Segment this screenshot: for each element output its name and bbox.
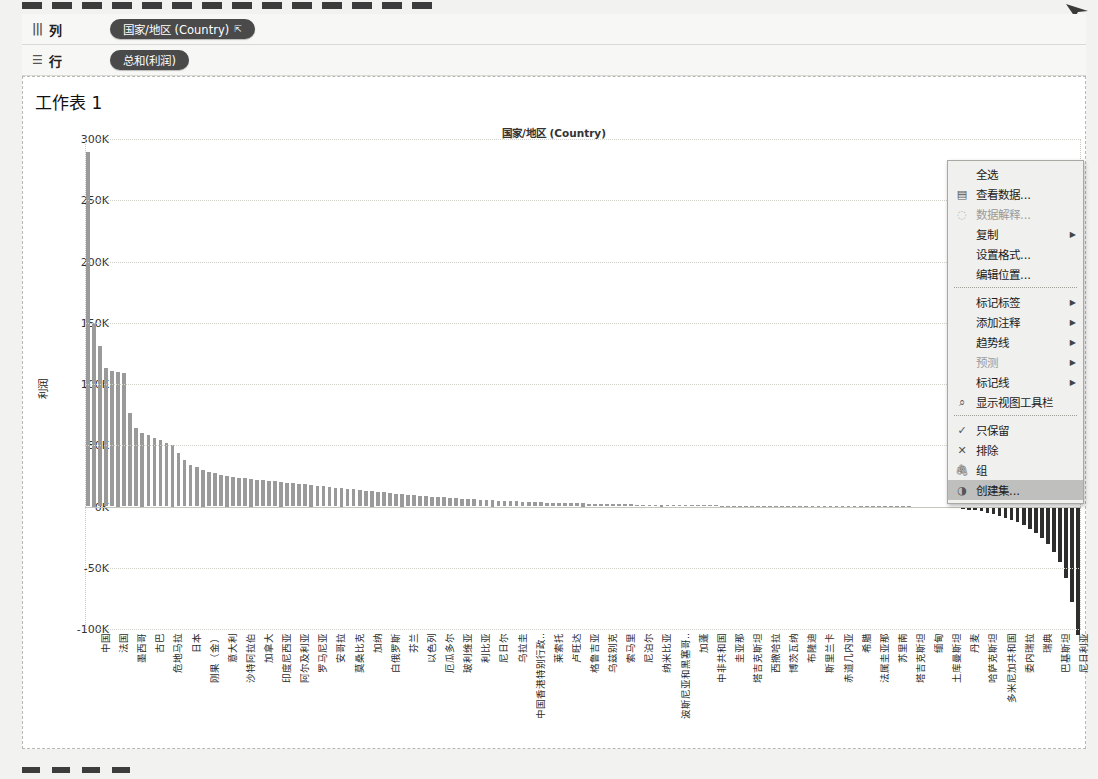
bar[interactable] [1058, 507, 1062, 562]
menu-item-查看数据[interactable]: ▤查看数据... [948, 184, 1083, 204]
bar[interactable] [448, 498, 452, 507]
bar[interactable] [364, 491, 368, 507]
bar[interactable] [140, 433, 144, 507]
menu-item-标记线[interactable]: 标记线▶ [948, 372, 1083, 392]
bar[interactable] [291, 483, 295, 506]
rows-shelf[interactable]: ☰ 行 总和(利润) [22, 45, 1086, 76]
bar[interactable] [358, 490, 362, 507]
bar[interactable] [998, 507, 1002, 516]
menu-item-添加注释[interactable]: 添加注释▶ [948, 312, 1083, 332]
bar[interactable] [195, 467, 199, 506]
bar[interactable] [189, 465, 193, 507]
bar[interactable] [346, 489, 350, 507]
bar[interactable] [159, 440, 163, 506]
bar[interactable] [249, 479, 253, 507]
bar[interactable] [454, 498, 458, 506]
bar[interactable] [334, 488, 338, 507]
bar[interactable] [134, 428, 138, 506]
bar[interactable] [388, 493, 392, 506]
bar[interactable] [255, 480, 259, 507]
bar[interactable] [382, 492, 386, 506]
bar[interactable] [309, 485, 313, 506]
bar[interactable] [376, 492, 380, 507]
bar[interactable] [485, 500, 489, 506]
bar[interactable] [285, 483, 289, 507]
bar[interactable] [1076, 507, 1080, 636]
bar[interactable] [406, 495, 410, 507]
context-menu[interactable]: 全选▤查看数据...◌数据解释...复制▶设置格式...编辑位置...标记标签▶… [947, 160, 1084, 504]
bar[interactable] [424, 496, 428, 506]
bar[interactable] [436, 497, 440, 506]
menu-item-设置格式[interactable]: 设置格式... [948, 244, 1083, 264]
bar[interactable] [1070, 507, 1074, 603]
bar[interactable] [992, 507, 996, 515]
bar[interactable] [316, 486, 320, 507]
bar[interactable] [1016, 507, 1020, 523]
bar[interactable] [243, 478, 247, 506]
bar[interactable] [261, 480, 265, 506]
bar[interactable] [177, 453, 181, 507]
bar[interactable] [183, 460, 187, 507]
bar[interactable] [1052, 507, 1056, 552]
menu-item-标记标签[interactable]: 标记标签▶ [948, 292, 1083, 312]
bar[interactable] [122, 373, 126, 507]
menu-item-趋势线[interactable]: 趋势线▶ [948, 332, 1083, 352]
bar[interactable] [231, 477, 235, 506]
bar[interactable] [400, 494, 404, 506]
bar[interactable] [116, 372, 120, 507]
bar[interactable] [225, 476, 229, 507]
bar[interactable] [165, 443, 169, 507]
bar[interactable] [86, 152, 90, 506]
bar[interactable] [201, 470, 205, 507]
bar[interactable] [418, 496, 422, 507]
bar[interactable] [322, 486, 326, 506]
bar[interactable] [98, 346, 102, 506]
bar[interactable] [110, 371, 114, 507]
pill-sum-profit[interactable]: 总和(利润) [110, 50, 189, 70]
bar[interactable] [412, 495, 416, 506]
bar[interactable] [442, 497, 446, 506]
bar[interactable] [1010, 507, 1014, 520]
bar[interactable] [128, 413, 132, 506]
bar[interactable] [207, 472, 211, 506]
menu-item-复制[interactable]: 复制▶ [948, 224, 1083, 244]
menu-item-显示视图工具栏[interactable]: ⌕显示视图工具栏 [948, 392, 1083, 412]
bar[interactable] [472, 499, 476, 506]
bar[interactable] [171, 445, 175, 506]
bar[interactable] [213, 473, 217, 506]
menu-item-组[interactable]: 🖇组 [948, 460, 1083, 480]
pill-country[interactable]: 国家/地区 (Country) ⇱ [110, 19, 255, 39]
bar[interactable] [430, 497, 434, 507]
columns-shelf[interactable]: ||| 列 国家/地区 (Country) ⇱ [22, 14, 1086, 45]
menu-item-创建集[interactable]: ◑创建集... [948, 480, 1083, 500]
bar[interactable] [352, 489, 356, 506]
bar[interactable] [1046, 507, 1050, 545]
bar[interactable] [460, 499, 464, 507]
bar[interactable] [279, 482, 283, 507]
bar[interactable] [1022, 507, 1026, 526]
bar[interactable] [273, 481, 277, 506]
bar[interactable] [1034, 507, 1038, 534]
bar[interactable] [370, 491, 374, 506]
bar[interactable] [466, 499, 470, 507]
bar[interactable] [267, 481, 271, 507]
bar[interactable] [104, 368, 108, 506]
bar[interactable] [394, 494, 398, 507]
menu-item-编辑位置[interactable]: 编辑位置... [948, 264, 1083, 284]
bar[interactable] [328, 487, 332, 507]
plot-region[interactable] [85, 139, 1081, 629]
menu-item-全选[interactable]: 全选 [948, 164, 1083, 184]
bar[interactable] [340, 488, 344, 506]
bar[interactable] [479, 500, 483, 507]
bar[interactable] [237, 478, 241, 507]
bar[interactable] [297, 484, 301, 507]
menu-item-只保留[interactable]: ✓只保留 [948, 420, 1083, 440]
menu-item-排除[interactable]: ✕排除 [948, 440, 1083, 460]
bar[interactable] [1004, 507, 1008, 518]
bar[interactable] [219, 475, 223, 507]
bar[interactable] [92, 323, 96, 507]
bar[interactable] [303, 484, 307, 506]
bar[interactable] [1028, 507, 1032, 530]
bar[interactable] [1040, 507, 1044, 539]
bar[interactable] [153, 438, 157, 507]
